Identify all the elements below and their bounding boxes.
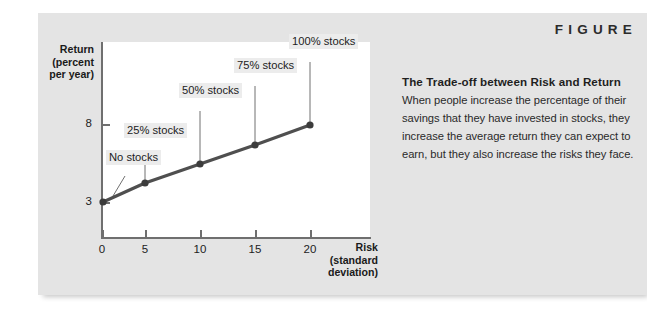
caption-block: The Trade-off between Risk and Return Wh… bbox=[402, 72, 642, 162]
caption-column: FIGURE The Trade-off between Risk and Re… bbox=[396, 0, 647, 314]
data-point-3 bbox=[251, 141, 258, 148]
figure-word: FIGURE bbox=[555, 22, 637, 37]
annotation-75-stocks: 75% stocks bbox=[234, 58, 297, 73]
data-point-1 bbox=[141, 179, 148, 186]
annotation-50-stocks: 50% stocks bbox=[179, 83, 242, 98]
caption-title: The Trade-off between Risk and Return bbox=[402, 75, 621, 88]
annotation-no-stocks: No stocks bbox=[106, 150, 161, 165]
data-point-0 bbox=[99, 198, 106, 205]
annotation-100-stocks: 100% stocks bbox=[289, 34, 358, 49]
data-point-4 bbox=[306, 121, 313, 128]
chart-area: Return (percent per year) Risk (standard… bbox=[0, 0, 396, 314]
caption-body: When people increase the percentage of t… bbox=[402, 94, 633, 160]
data-point-2 bbox=[196, 160, 203, 167]
annotation-25-stocks: 25% stocks bbox=[124, 123, 187, 138]
